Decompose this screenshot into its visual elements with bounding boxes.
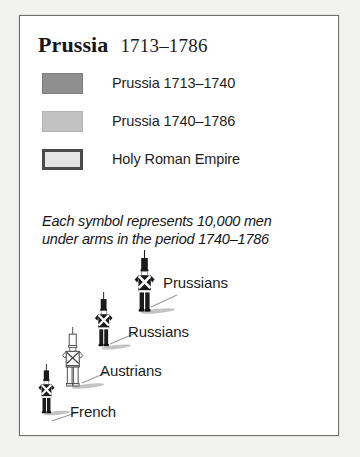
legend-swatch-prussia-1713-1740 <box>42 73 83 94</box>
legend-swatch-holy-roman-empire <box>42 149 83 170</box>
figure-label-prussians: Prussians <box>163 274 228 291</box>
legend-title: Prussia 1713–1786 <box>38 32 208 58</box>
legend-label-prussia-1713-1740: Prussia 1713–1740 <box>112 75 235 91</box>
figure-label-austrians: Austrians <box>100 362 162 379</box>
legend-swatch-prussia-1740-1786 <box>42 111 83 132</box>
caption-line-2: under arms in the period 1740–1786 <box>42 230 322 248</box>
legend-item-prussia-1740-1786: Prussia 1740–1786 <box>42 110 235 132</box>
pictogram-scale-caption: Each symbol represents 10,000 men under … <box>42 212 322 248</box>
legend-label-prussia-1740-1786: Prussia 1740–1786 <box>112 113 235 129</box>
legend-item-prussia-1713-1740: Prussia 1713–1740 <box>42 72 235 94</box>
map-legend-panel: Prussia 1713–1786 Prussia 1713–1740 Prus… <box>0 0 360 457</box>
legend-frame: Prussia 1713–1786 Prussia 1713–1740 Prus… <box>19 15 339 436</box>
page-title: Prussia <box>38 32 108 58</box>
legend-label-holy-roman-empire: Holy Roman Empire <box>112 151 240 167</box>
figure-label-russians: Russians <box>128 323 189 340</box>
figure-label-french: French <box>70 403 116 420</box>
legend-item-holy-roman-empire: Holy Roman Empire <box>42 148 240 170</box>
title-date-range: 1713–1786 <box>120 35 207 57</box>
caption-line-1: Each symbol represents 10,000 men <box>42 212 322 230</box>
